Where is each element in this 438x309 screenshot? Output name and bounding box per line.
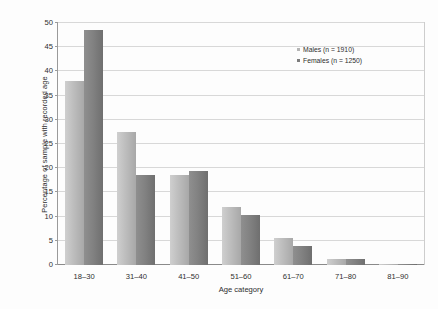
legend-label-males: Males (n = 1910) bbox=[303, 46, 354, 53]
y-axis-tick-label: 30 bbox=[45, 114, 53, 123]
plot-area: 05101520253035404550 18–3031–4041–5051–6… bbox=[57, 22, 425, 265]
y-axis-tick-label: 0 bbox=[49, 260, 53, 269]
bar-group: 41–50 bbox=[163, 23, 215, 265]
bar-males bbox=[117, 132, 136, 265]
y-axis-tick-label: 50 bbox=[45, 18, 53, 27]
bar-group: 51–60 bbox=[215, 23, 267, 265]
bar-females bbox=[293, 246, 312, 265]
x-axis-tick-label: 18–30 bbox=[74, 272, 95, 281]
y-axis-tick-label: 40 bbox=[45, 66, 53, 75]
bar-males bbox=[170, 175, 189, 265]
x-axis-tick-label: 81–90 bbox=[387, 272, 408, 281]
legend-item-females: Females (n = 1250) bbox=[297, 57, 362, 64]
y-axis-tick-label: 20 bbox=[45, 163, 53, 172]
y-axis-tick-label: 35 bbox=[45, 90, 53, 99]
x-axis-title: Age category bbox=[57, 285, 425, 294]
bar-females bbox=[189, 171, 208, 265]
bar-females bbox=[398, 264, 417, 265]
legend-swatch-icon-females bbox=[297, 59, 300, 62]
bar-females bbox=[84, 30, 103, 265]
bar-group: 31–40 bbox=[110, 23, 162, 265]
x-axis-tick-label: 71–80 bbox=[335, 272, 356, 281]
y-axis-tick-label: 25 bbox=[45, 139, 53, 148]
y-axis-tick-label: 45 bbox=[45, 42, 53, 51]
legend: Males (n = 1910) Females (n = 1250) bbox=[297, 46, 362, 64]
y-axis-tick-label: 5 bbox=[49, 235, 53, 244]
legend-swatch-icon-males bbox=[297, 48, 300, 51]
bar-groups: 18–3031–4041–5051–6061–7071–8081–90 bbox=[58, 23, 424, 265]
x-axis-tick-label: 41–50 bbox=[178, 272, 199, 281]
bar-females bbox=[346, 259, 365, 265]
y-axis-tick-label: 10 bbox=[45, 211, 53, 220]
bar-females bbox=[241, 215, 260, 265]
legend-item-males: Males (n = 1910) bbox=[297, 46, 362, 53]
x-axis-tick-label: 61–70 bbox=[283, 272, 304, 281]
bar-males bbox=[274, 238, 293, 265]
bar-males bbox=[379, 264, 398, 265]
bar-group: 18–30 bbox=[58, 23, 110, 265]
bar-group: 81–90 bbox=[372, 23, 424, 265]
bar-females bbox=[136, 175, 155, 266]
y-axis-tick-label: 15 bbox=[45, 187, 53, 196]
x-axis-tick-label: 51–60 bbox=[230, 272, 251, 281]
bar-males bbox=[222, 207, 241, 265]
bar-males bbox=[65, 81, 84, 265]
bar-chart-figure: Percentage of sample with recorded age 0… bbox=[0, 0, 438, 309]
bar-males bbox=[327, 259, 346, 265]
x-axis-tick-label: 31–40 bbox=[126, 272, 147, 281]
legend-label-females: Females (n = 1250) bbox=[303, 57, 362, 64]
